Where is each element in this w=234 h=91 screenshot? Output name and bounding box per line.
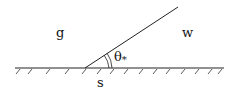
angle-arc-inner (104, 55, 109, 68)
solid-phase-label: s (97, 75, 104, 90)
contact-angle-label: θ* (114, 49, 127, 65)
gas-phase-label: g (56, 25, 64, 40)
angle-arc-outer (107, 53, 112, 68)
liquid-gas-interface-line (85, 7, 178, 68)
water-phase-label: w (182, 25, 193, 40)
contact-angle-diagram: g w s θ* (0, 0, 234, 91)
surface-hatching (16, 69, 222, 74)
